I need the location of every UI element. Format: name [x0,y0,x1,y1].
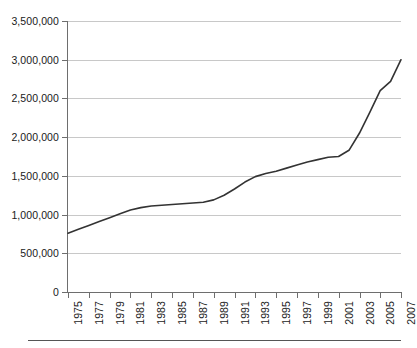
footer-divider [28,340,401,341]
data-line-series-0 [68,60,401,233]
